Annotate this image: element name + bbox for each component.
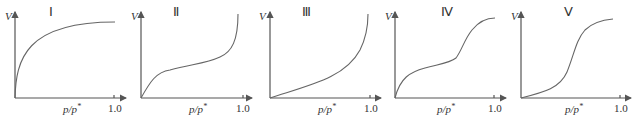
isotherm-curve-5 [521,19,613,98]
panel-type-5: V Ⅴ p/p* 1.0 [511,4,631,115]
x-tick-label: 1.0 [614,102,628,114]
panel-label: Ⅳ [441,4,453,19]
panel-label: Ⅲ [302,4,311,19]
y-axis-label: V [131,10,139,22]
x-tick-label: 1.0 [364,102,378,114]
x-tick-label: 1.0 [108,102,122,114]
isotherm-curve-2 [141,14,238,98]
panel-label: Ⅱ [173,4,179,19]
panel-label: Ⅴ [564,4,573,19]
panel-label: Ⅰ [49,4,53,19]
isotherm-curve-1 [15,22,115,98]
isotherm-curve-3 [270,14,368,98]
x-axis-label: p/p* [564,102,583,115]
panel-type-3: V Ⅲ p/p* 1.0 [259,4,381,115]
isotherm-curve-4 [395,18,495,98]
x-tick-label: 1.0 [488,102,502,114]
isotherm-diagram: V Ⅰ p/p* 1.0 V Ⅱ p/p* 1.0 V Ⅲ p/p* 1.0 V… [0,0,632,120]
panel-type-4: V Ⅳ p/p* 1.0 [385,4,506,115]
x-axis-label: p/p* [62,102,81,115]
y-axis-label: V [259,10,267,22]
x-tick-label: 1.0 [236,102,250,114]
y-axis-label: V [5,10,13,22]
y-axis-label: V [385,10,393,22]
panel-type-1: V Ⅰ p/p* 1.0 [5,4,126,115]
panel-type-2: V Ⅱ p/p* 1.0 [131,4,252,115]
x-axis-label: p/p* [436,102,455,115]
y-axis-label: V [511,10,519,22]
x-axis-label: p/p* [317,102,336,115]
x-axis-label: p/p* [188,102,207,115]
